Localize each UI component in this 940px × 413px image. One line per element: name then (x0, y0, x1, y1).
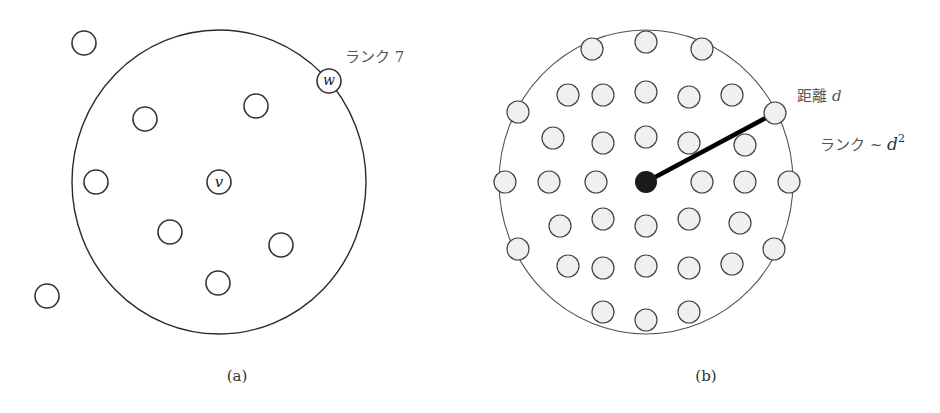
distance-label: 距離d (797, 87, 842, 105)
rank-label: ランク 7 (345, 48, 404, 66)
node (635, 126, 657, 148)
node-label-w: w (323, 72, 335, 88)
rank-scaling-label: ランク ~ d2 (820, 132, 905, 154)
node (763, 238, 785, 260)
figure: v w ランク 7 (a) 距離d ランク ~ d2 (b) (0, 0, 940, 413)
node (678, 132, 700, 154)
node (635, 31, 657, 53)
caption-b: (b) (695, 367, 716, 385)
panel-b: 距離d ランク ~ d2 (b) (494, 30, 905, 385)
node (721, 84, 743, 106)
node (678, 208, 700, 230)
node (678, 257, 700, 279)
node (592, 84, 614, 106)
node (269, 233, 293, 257)
node (538, 171, 560, 193)
caption-a: (a) (227, 367, 248, 385)
node (581, 38, 603, 60)
node (592, 257, 614, 279)
node (244, 94, 268, 118)
node (734, 134, 756, 156)
node (592, 132, 614, 154)
node (133, 107, 157, 131)
node (691, 38, 713, 60)
node (557, 84, 579, 106)
node (635, 215, 657, 237)
node (507, 101, 529, 123)
node (158, 220, 182, 244)
node (764, 102, 786, 124)
node (635, 309, 657, 331)
node (678, 86, 700, 108)
panel-a: v w ランク 7 (a) (35, 30, 404, 385)
node (72, 31, 96, 55)
target-node-w: w (317, 69, 341, 93)
node-label-v: v (215, 173, 224, 191)
center-node (635, 171, 657, 193)
node (635, 81, 657, 103)
node (542, 127, 564, 149)
node-group (35, 31, 293, 308)
node (778, 171, 800, 193)
node (721, 253, 743, 275)
node (585, 171, 607, 193)
node (206, 271, 230, 295)
node (635, 255, 657, 277)
node (592, 208, 614, 230)
node (557, 255, 579, 277)
center-node-v: v (207, 170, 231, 194)
node (84, 170, 108, 194)
node (734, 171, 756, 193)
node (35, 284, 59, 308)
node (494, 171, 516, 193)
node (729, 212, 751, 234)
node (549, 215, 571, 237)
node (592, 301, 614, 323)
node (678, 301, 700, 323)
node (507, 238, 529, 260)
node (691, 171, 713, 193)
